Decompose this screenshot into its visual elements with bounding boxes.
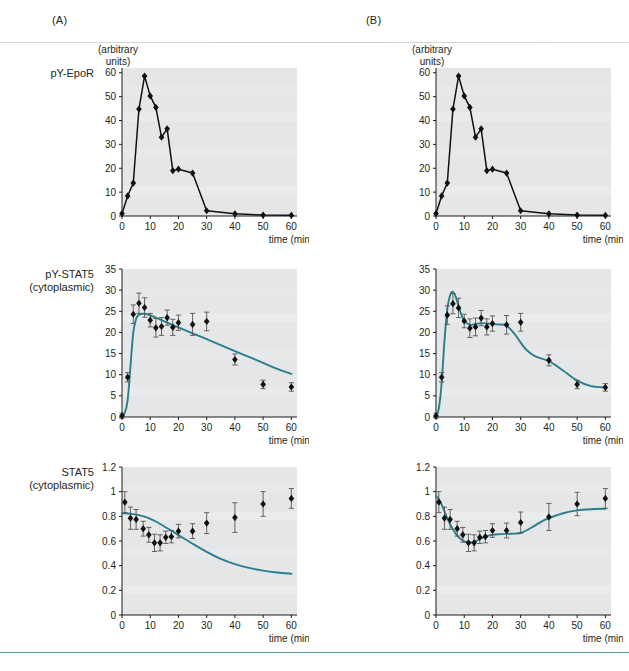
scan-band	[436, 511, 611, 520]
x-tick-label: 10	[145, 221, 157, 232]
x-tick-label: 0	[119, 422, 125, 433]
y-tick-label: 0	[110, 211, 116, 222]
y-tick-label: 5	[110, 390, 116, 401]
scan-band	[122, 186, 297, 195]
y-tick-label: 0	[424, 610, 430, 621]
y-tick-label: 10	[105, 187, 117, 198]
x-tick-label: 60	[600, 422, 612, 433]
row-label-text: pY-EpoR	[50, 67, 94, 79]
y-tick-label: 0.8	[416, 511, 430, 522]
x-tick-label: 40	[543, 620, 555, 631]
y-tick-label: 40	[105, 115, 117, 126]
y-tick-label: 0.4	[416, 560, 430, 571]
x-tick-label: 0	[433, 422, 439, 433]
y-tick-label: 10	[419, 187, 431, 198]
x-tick-label: 10	[459, 221, 471, 232]
y-tick-label: 35	[419, 264, 431, 275]
y-tick-label: 15	[105, 348, 117, 359]
row-label-py-epor: pY-EpoR	[0, 67, 94, 80]
row-sublabel-text: (cytoplasmic)	[29, 479, 94, 491]
chart-b-stat5: 00.20.40.60.811.20102030405060time (min)	[406, 461, 623, 645]
x-tick-label: 50	[258, 620, 270, 631]
x-tick-label: 0	[433, 221, 439, 232]
y-tick-label: 40	[419, 115, 431, 126]
x-tick-label: 30	[201, 422, 213, 433]
x-tick-label: 60	[286, 422, 298, 433]
y-tick-label: 50	[419, 91, 431, 102]
y-tick-label: 0.8	[102, 511, 116, 522]
x-tick-label: 50	[258, 422, 270, 433]
x-axis-label: time (min)	[269, 234, 309, 245]
x-tick-label: 60	[286, 221, 298, 232]
y-tick-label: 20	[105, 163, 117, 174]
y-tick-label: 25	[105, 306, 117, 317]
scan-band	[436, 186, 611, 195]
row-sublabel-text: (cytoplasmic)	[29, 281, 94, 293]
x-tick-label: 50	[258, 221, 270, 232]
x-tick-label: 20	[173, 422, 185, 433]
y-tick-label: 1.2	[102, 462, 116, 473]
x-tick-label: 60	[286, 620, 298, 631]
y-tick-label: 10	[105, 369, 117, 380]
scan-band	[436, 112, 611, 121]
header-divider	[0, 42, 629, 43]
y-tick-label: 5	[424, 390, 430, 401]
units-line-1: (arbitrary	[98, 44, 138, 55]
y-tick-label: 20	[419, 327, 431, 338]
x-tick-label: 20	[173, 221, 185, 232]
x-tick-label: 20	[487, 221, 499, 232]
x-tick-label: 10	[459, 422, 471, 433]
y-tick-label: 0	[424, 412, 430, 423]
x-tick-label: 40	[229, 620, 241, 631]
x-axis-label: time (min)	[269, 435, 309, 446]
x-tick-label: 0	[119, 221, 125, 232]
x-tick-label: 0	[433, 620, 439, 631]
x-axis-label: time (min)	[269, 633, 309, 644]
row-label-text: pY-STAT5	[45, 268, 94, 280]
y-tick-label: 30	[419, 285, 431, 296]
x-tick-label: 30	[201, 620, 213, 631]
y-tick-label: 30	[105, 139, 117, 150]
scan-band	[122, 485, 297, 494]
panel-letter-a: (A)	[52, 14, 67, 26]
x-tick-label: 10	[145, 422, 157, 433]
x-tick-label: 20	[173, 620, 185, 631]
scan-band	[122, 149, 297, 158]
y-tick-label: 35	[105, 264, 117, 275]
y-tick-label: 20	[419, 163, 431, 174]
x-axis-label: time (min)	[583, 633, 623, 644]
y-tick-label: 0.6	[416, 536, 430, 547]
x-tick-label: 40	[543, 221, 555, 232]
x-tick-label: 30	[515, 221, 527, 232]
y-tick-label: 0.6	[102, 536, 116, 547]
x-tick-label: 30	[515, 620, 527, 631]
y-tick-label: 0.2	[102, 585, 116, 596]
row-label-py-stat5: pY-STAT5 (cytoplasmic)	[0, 268, 94, 294]
x-tick-label: 40	[543, 422, 555, 433]
y-tick-label: 0	[110, 610, 116, 621]
y-tick-label: 25	[419, 306, 431, 317]
chart-b-py-epor: 01020304050600102030405060time (min)	[406, 62, 623, 246]
y-tick-label: 0	[110, 412, 116, 423]
x-axis-label: time (min)	[583, 234, 623, 245]
x-tick-label: 10	[145, 620, 157, 631]
y-tick-label: 50	[105, 91, 117, 102]
panel-letter-b: (B)	[366, 14, 381, 26]
x-tick-label: 50	[572, 620, 584, 631]
x-tick-label: 20	[487, 422, 499, 433]
row-label-text: STAT5	[61, 466, 94, 478]
y-tick-label: 60	[419, 67, 431, 78]
x-tick-label: 30	[515, 422, 527, 433]
scan-band	[436, 287, 611, 296]
scan-band	[122, 287, 297, 296]
scan-band	[436, 548, 611, 557]
scan-band	[436, 485, 611, 494]
x-axis-label: time (min)	[583, 435, 623, 446]
y-tick-label: 1	[424, 486, 430, 497]
y-tick-label: 20	[105, 327, 117, 338]
x-tick-label: 0	[119, 620, 125, 631]
scan-band	[122, 112, 297, 121]
y-tick-label: 0	[424, 211, 430, 222]
x-tick-label: 50	[572, 422, 584, 433]
x-tick-label: 60	[600, 620, 612, 631]
